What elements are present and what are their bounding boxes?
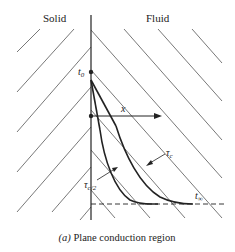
tau-c2-leader [97,170,113,180]
fluid-label: Fluid [146,12,170,24]
origin-point [89,114,93,118]
fluid-hatching [91,29,222,218]
t0-point [89,70,93,74]
solid-hatching [17,29,91,220]
plane-conduction-diagram: Solid Fluid t0 x τc τc/2 t∞ (a) Plane co… [0,0,235,252]
x-axis-arrowhead [154,113,162,119]
figure-caption: (a) Plane conduction region [59,232,177,244]
tau-c-leader-arrowhead [146,160,153,166]
tau-c-leader [150,154,165,163]
tau-c-label: τc [166,147,174,160]
solid-label: Solid [43,12,67,24]
t0-label: t0 [78,66,85,79]
tau-c-half-curve [100,130,158,204]
tau-c2-leader-arrowhead [112,167,118,172]
tau-c2-label: τc/2 [84,179,97,192]
x-axis-label: x [120,103,126,114]
